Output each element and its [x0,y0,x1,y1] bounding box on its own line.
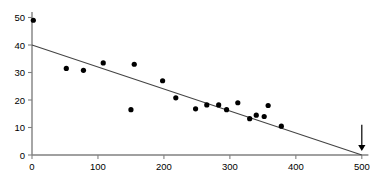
x-tick-label: 400 [288,161,304,172]
y-tick-label: 10 [14,122,25,133]
data-point [101,60,106,65]
y-tick-label: 40 [14,40,25,51]
y-tick-label: 0 [20,150,25,161]
data-point [247,116,252,121]
data-point [132,62,137,67]
data-point [128,107,133,112]
x-tick-label: 200 [156,161,172,172]
data-point [279,124,284,129]
data-point [235,100,240,105]
x-axis: 0100200300400500 [29,155,369,172]
annotations [358,125,365,151]
data-point [31,18,36,23]
data-point [173,95,178,100]
y-tick-label: 20 [14,95,25,106]
x-tick-label: 300 [222,161,238,172]
regression-line [32,45,362,155]
data-point [160,78,165,83]
x-tick-label: 100 [90,161,106,172]
data-point [254,113,259,118]
data-point [262,114,267,119]
data-points [31,18,284,129]
y-tick-label: 30 [14,67,25,78]
data-point [193,106,198,111]
down-arrow-icon [358,145,365,151]
data-point [81,68,86,73]
data-point [216,102,221,107]
chart-canvas: 01020304050 0100200300400500 [0,0,388,186]
regression-line-path [32,45,362,155]
x-tick-label: 0 [29,161,34,172]
data-point [266,103,271,108]
scatter-plot-figure: 01020304050 0100200300400500 [0,0,388,186]
y-tick-label: 50 [14,12,25,23]
x-tick-label: 500 [354,161,370,172]
data-point [64,66,69,71]
data-point [224,107,229,112]
data-point [204,102,209,107]
y-axis: 01020304050 [14,12,32,161]
